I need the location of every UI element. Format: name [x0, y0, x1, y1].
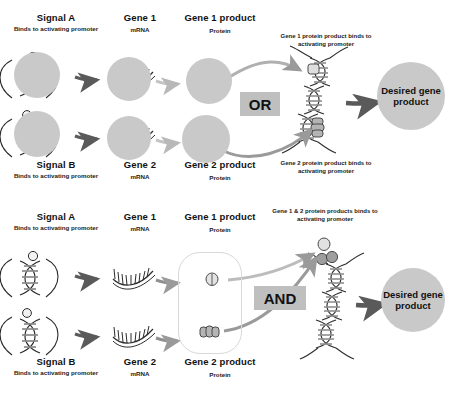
signal-a-cell-top [14, 52, 60, 98]
or-gate-panel: Signal A Binds to activating promoter Ge… [0, 0, 449, 200]
signal-b-subtitle-bottom: Binds to activating promoter [8, 370, 104, 377]
gene-2-product-subtitle-top: Protein [165, 175, 275, 182]
signal-b-subtitle-top: Binds to activating promoter [8, 173, 104, 180]
and-gate-panel: Signal A Binds to activating promoter Ge… [0, 200, 449, 405]
or-operator-box: OR [240, 92, 280, 116]
gene-1-binding-note: Gene 1 protein product binds to activati… [268, 33, 384, 48]
gene-2-product-cell-top [182, 115, 230, 163]
gene-1-product-subtitle-bottom: Protein [165, 227, 275, 234]
and-operator-box: AND [254, 286, 306, 310]
signal-b-cell-top [14, 111, 60, 157]
gene-1-product-cell-top [186, 58, 232, 104]
signal-a-subtitle-bottom: Binds to activating promoter [8, 225, 104, 232]
gene-1-and-2-binding-note: Gene 1 & 2 protein products binds to act… [266, 208, 384, 223]
desired-gene-product-bottom: Desired gene product [381, 268, 445, 332]
gene-2-binding-note: Gene 2 protein product binds to activati… [268, 160, 384, 175]
and-gate-product-grouping-box [178, 252, 242, 354]
gene-1-product-title-top: Gene 1 product [165, 13, 275, 24]
desired-gene-product-top: Desired gene product [377, 62, 445, 130]
gene-1-product-title-bottom: Gene 1 product [165, 212, 275, 223]
gene-2-product-title-top: Gene 2 product [165, 160, 275, 171]
signal-a-subtitle-top: Binds to activating promoter [8, 26, 104, 33]
gene-2-product-title-bottom: Gene 2 product [165, 357, 275, 368]
gene-1-product-subtitle-top: Protein [165, 28, 275, 35]
gene-2-cell-top [107, 116, 151, 160]
gene-1-cell-top [107, 57, 151, 101]
gene-2-product-subtitle-bottom: Protein [165, 372, 275, 379]
